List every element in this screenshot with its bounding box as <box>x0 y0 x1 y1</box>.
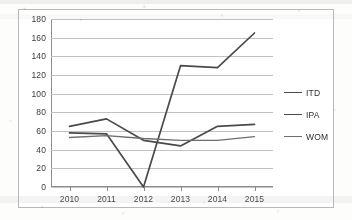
gridline-0 <box>51 187 273 188</box>
series-line-ipa <box>70 119 255 146</box>
legend-label-itd: ITD <box>306 88 320 98</box>
x-tick-label-2015: 2015 <box>245 194 264 204</box>
y-tick-label-40: 40 <box>36 145 46 155</box>
y-tick-label-180: 180 <box>32 14 46 24</box>
y-tick-label-60: 60 <box>36 126 46 136</box>
y-tick-label-20: 20 <box>36 163 46 173</box>
x-tick-label-2012: 2012 <box>134 194 153 204</box>
y-tick-label-0: 0 <box>41 182 46 192</box>
y-tick-label-140: 140 <box>32 51 46 61</box>
series-line-itd <box>70 33 255 187</box>
x-tick-mark-2010 <box>70 187 71 191</box>
x-tick-mark-2015 <box>255 187 256 191</box>
x-tick-label-2013: 2013 <box>171 194 190 204</box>
x-tick-mark-2013 <box>181 187 182 191</box>
legend-swatch-wom-icon <box>284 136 302 137</box>
x-tick-label-2014: 2014 <box>208 194 227 204</box>
legend-item-itd[interactable]: ITD <box>284 84 328 101</box>
x-tick-label-2011: 2011 <box>97 194 116 204</box>
x-tick-mark-2014 <box>218 187 219 191</box>
legend-swatch-itd-icon <box>284 92 302 93</box>
legend-swatch-ipa-icon <box>284 114 302 115</box>
x-tick-mark-2011 <box>107 187 108 191</box>
x-tick-label-2010: 2010 <box>60 194 79 204</box>
y-tick-label-100: 100 <box>32 89 46 99</box>
y-tick-label-160: 160 <box>32 33 46 43</box>
plot-area: 020406080100120140160180 201020112012201… <box>51 19 273 187</box>
series-line-wom <box>70 136 255 141</box>
chart-legend: ITDIPAWOM <box>284 84 328 150</box>
legend-item-ipa[interactable]: IPA <box>284 106 328 123</box>
y-tick-label-80: 80 <box>36 107 46 117</box>
y-tick-label-120: 120 <box>32 70 46 80</box>
legend-label-ipa: IPA <box>306 110 320 120</box>
legend-label-wom: WOM <box>306 132 328 142</box>
series-group <box>51 19 273 187</box>
chart-page: 020406080100120140160180 201020112012201… <box>0 0 352 220</box>
legend-item-wom[interactable]: WOM <box>284 128 328 145</box>
